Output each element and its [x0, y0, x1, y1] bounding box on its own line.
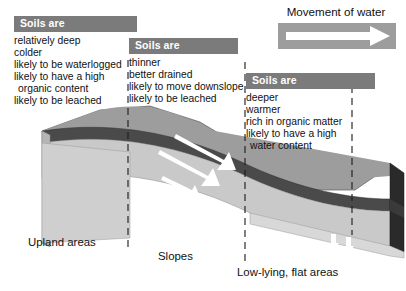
zone-caption-upland: Upland areas [28, 236, 96, 248]
callout-upland-body: relatively deep colder likely to be wate… [14, 32, 137, 108]
zone-caption-slopes: Slopes [158, 250, 193, 262]
legend-swatch [278, 23, 396, 49]
callout-upland-header: Soils are [14, 16, 137, 32]
callout-lowlying-line-4: likely to have a high [246, 128, 375, 140]
callout-slopes-line-1: thinner [129, 57, 243, 69]
callout-upland-line-1: relatively deep [14, 35, 137, 47]
callout-slopes-line-3: likely to move downslope [129, 81, 243, 93]
water-arrow-upland-2 [28, 127, 36, 139]
callout-lowlying-body: deeper warmer rich in organic matter lik… [246, 89, 375, 152]
callout-upland-line-2: colder [14, 47, 137, 59]
legend-title: Movement of water [268, 5, 404, 19]
zone-caption-lowlying: Low-lying, flat areas [237, 266, 338, 278]
callout-lowlying-line-5: water content [246, 140, 375, 152]
soil-catena-diagram: Movement of water Soils are relatively d… [0, 0, 406, 291]
callout-lowlying-header: Soils are [246, 73, 375, 89]
legend: Movement of water [268, 5, 404, 49]
callout-upland-line-4: likely to have a high [14, 71, 137, 83]
callout-lowlying-line-3: rich in organic matter [246, 116, 375, 128]
callout-upland-line-3: likely to be waterlogged [14, 59, 137, 71]
callout-lowlying-soils: Soils are deeper warmer rich in organic … [246, 73, 375, 152]
callout-lowlying-line-1: deeper [246, 92, 375, 104]
callout-upland-line-5: organic content [14, 83, 137, 95]
callout-upland-line-6: likely to be leached [14, 95, 137, 107]
upland-block-side [42, 143, 130, 243]
callout-slopes-header: Soils are [129, 38, 238, 54]
callout-slopes-soils: Soils are thinner better drained likely … [129, 38, 243, 105]
callout-slopes-body: thinner better drained likely to move do… [129, 54, 243, 105]
right-arrow-icon [278, 23, 396, 49]
water-arrow-upland-1 [20, 126, 28, 138]
callout-slopes-line-4: likely to be leached [129, 93, 243, 105]
callout-upland-soils: Soils are relatively deep colder likely … [14, 16, 137, 108]
callout-slopes-line-2: better drained [129, 69, 243, 81]
callout-lowlying-line-2: warmer [246, 104, 375, 116]
